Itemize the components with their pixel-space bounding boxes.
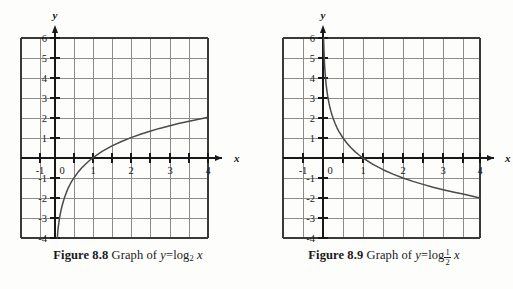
- y-tick-label: 5: [310, 53, 315, 64]
- plot-area-8-9: -1 0 1 2 3 4 6 5 4 3 2 1 -1 -2 -3: [256, 0, 512, 250]
- figure-number: Figure 8.8: [53, 248, 108, 262]
- plot-svg-8-8: -1 0 1 2 3 4 6 5 4 3 2 1 -1 -2 -3: [0, 0, 256, 250]
- y-axis-8-9: [318, 25, 328, 238]
- x-axis-8-9: [283, 153, 494, 163]
- x-tick-label: 1: [360, 165, 365, 176]
- figure-caption-8-9: Figure 8.9 Graph of y=log12 x: [256, 248, 512, 266]
- figure-number: Figure 8.9: [308, 248, 363, 262]
- y-tick-label: -2: [306, 193, 315, 204]
- y-tick-label: 1: [310, 133, 315, 144]
- x-tick-label: 2: [400, 165, 405, 176]
- x-axis-label: x: [504, 152, 511, 164]
- figure-page: -1 0 1 2 3 4 6 5 4 3 2 1 -1 -2 -3: [0, 0, 513, 289]
- y-tick-label: -3: [38, 213, 47, 224]
- y-tick-label: 6: [310, 33, 315, 44]
- y-axis-label: y: [51, 9, 58, 21]
- x-tick-label: 3: [167, 165, 172, 176]
- figure-8-8: -1 0 1 2 3 4 6 5 4 3 2 1 -1 -2 -3: [0, 0, 256, 289]
- plot-area-8-8: -1 0 1 2 3 4 6 5 4 3 2 1 -1 -2 -3: [0, 0, 256, 250]
- figure-equation: y=log2 x: [160, 248, 202, 262]
- x-tick-label: 1: [90, 165, 95, 176]
- y-tick-label: 5: [42, 53, 47, 64]
- fraction-denominator: 2: [444, 258, 450, 267]
- grid-8-8: [21, 38, 208, 238]
- y-axis-label: y: [319, 9, 326, 21]
- y-tick-label: -1: [38, 173, 47, 184]
- y-tick-label: -1: [306, 173, 315, 184]
- equation-function: log: [173, 248, 189, 262]
- x-tick-label: 0: [327, 165, 332, 176]
- figure-caption-text: Graph of: [112, 248, 158, 262]
- plot-svg-8-9: -1 0 1 2 3 4 6 5 4 3 2 1 -1 -2 -3: [256, 0, 512, 250]
- y-tick-label: 4: [42, 73, 48, 84]
- y-tick-label: 2: [42, 113, 47, 124]
- y-tick-label: 3: [310, 93, 315, 104]
- equation-base: 2: [189, 253, 193, 263]
- y-tick-label: -2: [38, 193, 47, 204]
- figure-caption-8-8: Figure 8.8 Graph of y=log2 x: [0, 248, 256, 264]
- x-tick-label: 3: [440, 165, 445, 176]
- x-tick-labels-8-8: -1 0 1 2 3 4: [36, 165, 212, 176]
- y-axis-8-8: [50, 25, 60, 238]
- y-tick-label: 4: [310, 73, 316, 84]
- y-tick-label: 3: [42, 93, 47, 104]
- y-tick-label: 6: [42, 33, 47, 44]
- x-tick-label: 4: [205, 165, 211, 176]
- x-axis-8-8: [21, 153, 222, 163]
- x-tick-labels-8-9: -1 0 1 2 3 4: [299, 165, 484, 176]
- equation-argument: x: [454, 248, 460, 262]
- y-tick-label: -4: [38, 233, 47, 244]
- x-axis-label: x: [233, 152, 240, 164]
- equation-base-fraction: 12: [444, 248, 450, 266]
- y-tick-label: 2: [310, 113, 315, 124]
- figure-8-9: -1 0 1 2 3 4 6 5 4 3 2 1 -1 -2 -3: [256, 0, 512, 289]
- equation-argument: x: [197, 248, 203, 262]
- y-tick-label: -4: [306, 233, 315, 244]
- x-tick-label: 2: [128, 165, 133, 176]
- figure-equation: y=log12 x: [415, 248, 459, 262]
- x-tick-label: 4: [477, 165, 483, 176]
- y-tick-label: -3: [306, 213, 315, 224]
- figure-caption-text: Graph of: [367, 248, 413, 262]
- x-tick-label: 0: [59, 165, 64, 176]
- equation-function: log: [428, 248, 444, 262]
- y-tick-label: 1: [42, 133, 47, 144]
